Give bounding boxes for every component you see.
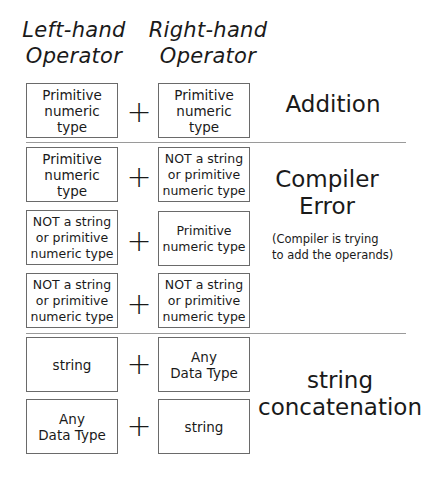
right-operand-box: NOT a string or primitive numeric type: [158, 147, 250, 202]
plus-operator: +: [124, 162, 154, 192]
plus-operator: +: [124, 411, 154, 441]
left-operand-box: NOT a string or primitive numeric type: [26, 210, 118, 265]
section-divider: [26, 333, 406, 334]
plus-operator: +: [124, 349, 154, 379]
right-operand-box: Primitive numeric type: [158, 211, 250, 266]
result-compiler-error: Compiler Error: [262, 166, 392, 220]
right-operand-header: Right-hand Operator: [144, 17, 272, 69]
plus-operator: +: [124, 289, 154, 319]
result-string-concatenation: string concatenation: [256, 367, 424, 421]
compiler-error-note: (Compiler is trying to add the operands): [272, 231, 402, 263]
result-addition: Addition: [268, 91, 398, 118]
left-operand-header: Left-hand Operator: [14, 17, 134, 69]
plus-operator: +: [124, 226, 154, 256]
right-operand-box: Primitive numeric type: [158, 83, 250, 138]
right-operand-box: string: [158, 399, 250, 454]
left-operand-box: NOT a string or primitive numeric type: [26, 273, 118, 328]
left-operand-box: Any Data Type: [26, 399, 118, 454]
right-operand-box: Any Data Type: [158, 337, 250, 392]
left-operand-box: string: [26, 337, 118, 392]
right-operand-box: NOT a string or primitive numeric type: [158, 273, 250, 328]
section-divider: [26, 142, 406, 143]
left-operand-box: Primitive numeric type: [26, 147, 118, 202]
plus-operator: +: [124, 97, 154, 127]
left-operand-box: Primitive numeric type: [26, 83, 118, 138]
